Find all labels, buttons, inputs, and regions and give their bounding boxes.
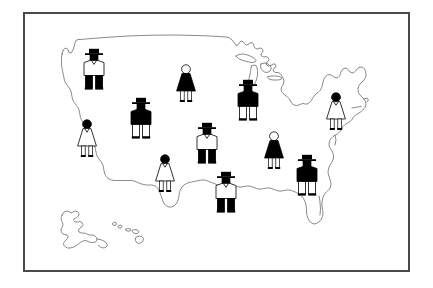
florida-inner-path: [319, 196, 321, 215]
chesapeake-bay-path: [335, 135, 336, 145]
lake-michigan-path: [249, 65, 258, 87]
alaska-path: [61, 211, 97, 248]
hawaii-molokai-path: [126, 229, 132, 232]
alaska-panhandle-path: [97, 239, 107, 248]
hawaii-kauai-path: [113, 222, 117, 226]
united-states-map-outline: [0, 0, 433, 288]
hawaii-oahu-path: [118, 225, 122, 228]
lake-huron-erie-path: [261, 63, 272, 73]
lake-erie-path: [268, 76, 282, 80]
contiguous-us-path: [62, 35, 367, 224]
hawaii-bigisland-path: [136, 236, 144, 244]
long-island-path: [352, 107, 361, 109]
us-population-map-figure: United States map with population pictog…: [0, 0, 433, 288]
lake-superior-path: [236, 54, 256, 63]
hawaii-maui-path: [132, 230, 139, 234]
